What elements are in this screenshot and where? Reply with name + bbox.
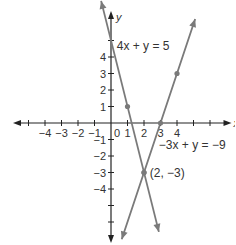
y-tick-label: 3 (100, 68, 106, 80)
y-tick-label: −1 (93, 134, 106, 146)
annotation-label: 4x + y = 5 (117, 39, 170, 53)
annotation-label: −3x + y = −9 (159, 138, 226, 152)
series-arrow-icon (189, 19, 196, 28)
y-tick-label: −2 (93, 150, 106, 162)
x-tick-label: −3 (55, 127, 68, 139)
data-point (174, 71, 179, 76)
x-axis-right-arrow-icon (224, 120, 232, 126)
x-axis-label: x (233, 117, 236, 129)
y-axis-up-arrow-icon (108, 11, 114, 19)
x-tick-label: 1 (124, 127, 130, 139)
y-tick-label: 1 (100, 101, 106, 113)
y-axis-label: y (115, 11, 123, 23)
y-tick-label: 4 (100, 51, 106, 63)
coordinate-plane: −4−3−2−1012344321−1−2−3−4 4x + y = 5−3x … (0, 0, 235, 245)
x-tick-label: 4 (174, 127, 180, 139)
x-axis-left-arrow-icon (13, 120, 21, 126)
y-tick-label: −4 (93, 183, 106, 195)
y-tick-label: 2 (100, 84, 106, 96)
data-point (158, 120, 163, 125)
data-point (125, 104, 130, 109)
x-tick-label: −2 (72, 127, 85, 139)
x-tick-label: 0 (114, 127, 120, 139)
annotation-label: (2, −3) (150, 166, 185, 180)
y-axis-down-arrow-icon (108, 235, 114, 243)
data-point (141, 170, 146, 175)
x-tick-label: 2 (141, 127, 147, 139)
x-tick-label: −4 (39, 127, 52, 139)
y-tick-label: −3 (93, 167, 106, 179)
series-line-1 (101, 1, 159, 232)
series-lines (100, 1, 196, 239)
annotations: 4x + y = 5−3x + y = −9(2, −3) (117, 39, 226, 179)
series-arrow-icon (121, 231, 128, 240)
